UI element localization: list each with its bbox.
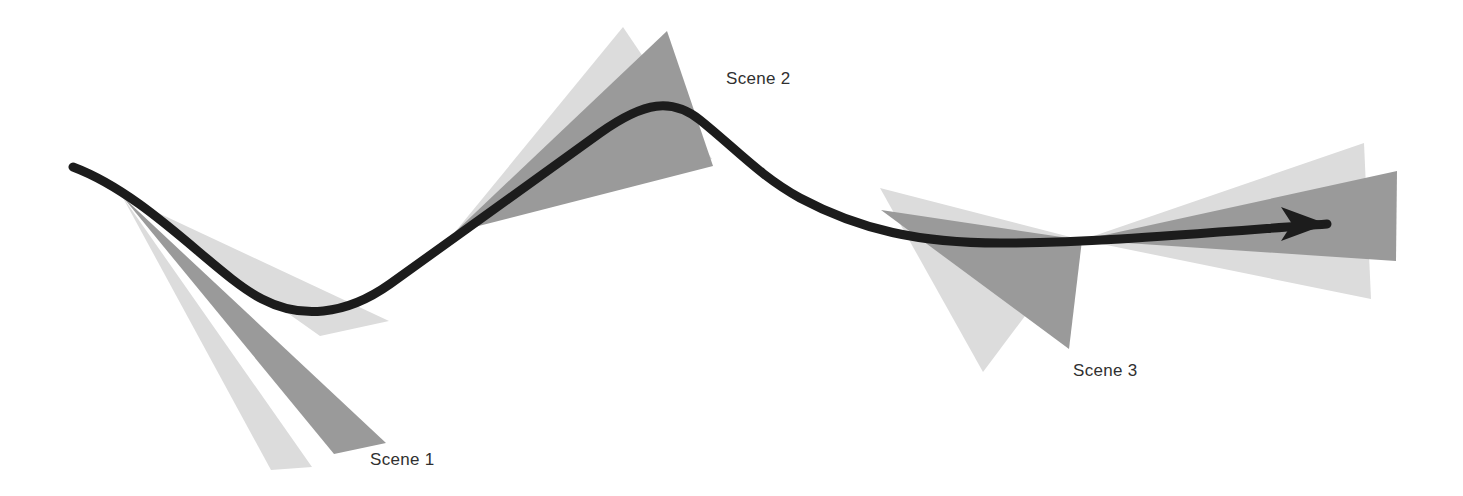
scene-label-3: Scene 3 [1073, 361, 1137, 381]
scene-label-2: Scene 2 [726, 69, 790, 89]
diagram-canvas: Scene 1 Scene 2 Scene 3 [0, 0, 1463, 496]
scene-label-1: Scene 1 [370, 450, 434, 470]
